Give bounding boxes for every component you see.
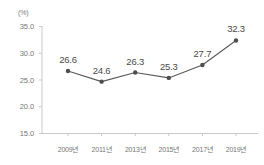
data-point-marker [133,70,137,74]
data-point-label: 26.3 [126,56,144,67]
data-series-markers [66,38,238,84]
data-point-marker [200,63,204,67]
data-point-label: 25.3 [160,61,178,72]
x-axis-tick-label: 2015년 [159,144,180,154]
plot-area [0,0,264,165]
data-point-marker [234,38,238,42]
data-point-label: 24.6 [93,65,111,76]
x-axis-tick-label: 2013년 [125,144,146,154]
x-axis-tick-label: 2019년 [226,144,247,154]
x-axis-tick-label: 2009년 [58,144,79,154]
line-chart: (%) 35.030.025.020.015.0 2009년2011년2013년… [0,0,264,165]
data-point-label: 27.7 [194,48,212,59]
data-point-label: 32.3 [227,23,245,34]
data-point-marker [66,69,70,73]
data-point-marker [99,79,103,83]
data-point-label: 26.6 [59,54,77,65]
x-axis-tick-label: 2017년 [192,144,213,154]
x-axis-tick-label: 2011년 [92,144,112,154]
data-point-marker [167,76,171,80]
